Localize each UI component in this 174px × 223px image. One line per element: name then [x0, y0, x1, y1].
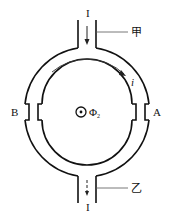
- label-tube-bottom: 乙: [131, 182, 142, 194]
- notch-b: [25, 104, 42, 120]
- flux-symbol: Φ: [89, 106, 97, 118]
- inner-ring: [42, 59, 132, 165]
- ring-conductor-diagram: I I 甲 乙 i B A Φ2: [0, 0, 174, 223]
- label-outlet-current: I: [86, 201, 90, 213]
- flux-subscript: 2: [97, 113, 100, 119]
- ring-current-arrow: [52, 59, 126, 76]
- label-inlet-current: I: [86, 7, 90, 19]
- label-ring-current: i: [131, 76, 134, 88]
- label-tube-top: 甲: [131, 26, 142, 38]
- outer-ring: [25, 48, 149, 176]
- notch-a: [132, 104, 149, 120]
- label-point-a: A: [153, 106, 161, 118]
- label-point-b: B: [11, 106, 18, 118]
- outlet-current-arrow: [85, 180, 89, 196]
- flux-out-of-page-icon: [76, 107, 86, 117]
- label-flux: Φ2: [89, 106, 100, 119]
- inlet-current-arrow: [85, 26, 90, 45]
